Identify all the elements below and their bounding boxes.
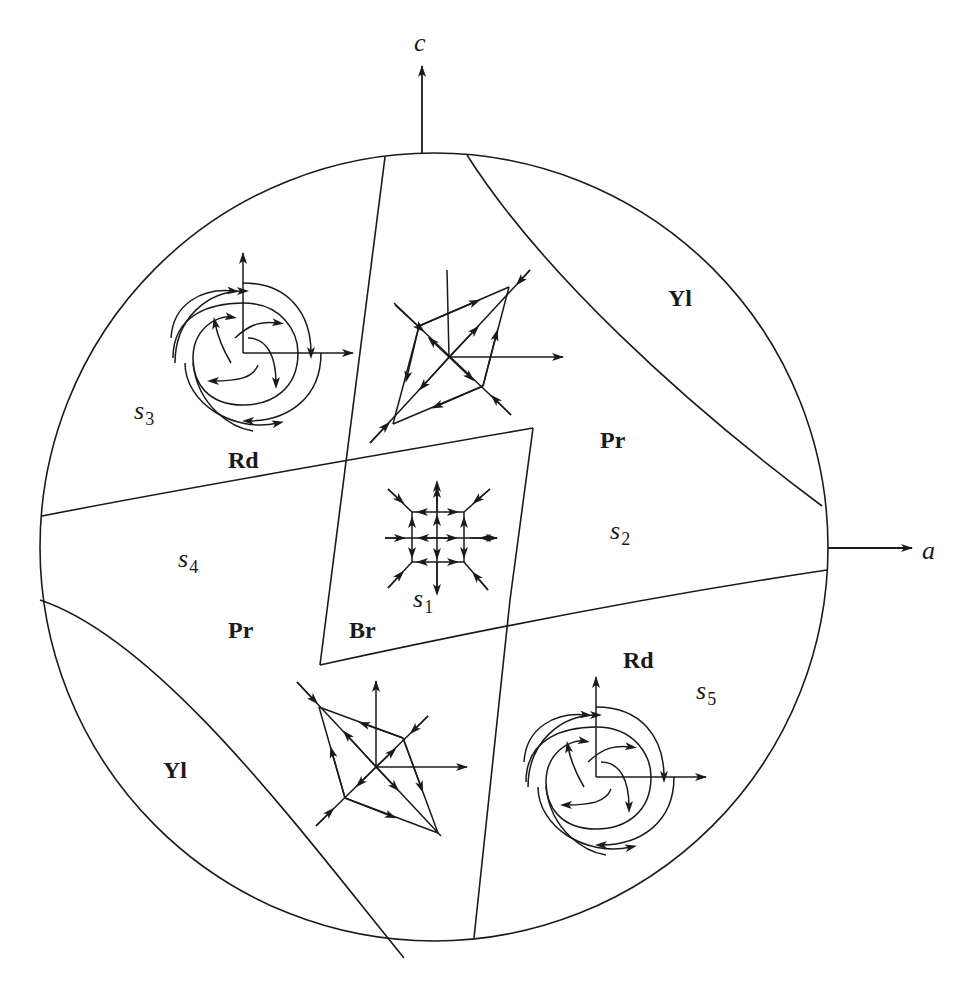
saddle-portrait-bottom-center xyxy=(297,681,467,836)
boundary-horizontal-upper xyxy=(42,428,533,516)
point-label-s3: s3 xyxy=(134,398,154,428)
region-label-pr-right: Pr xyxy=(600,428,625,452)
region-label-pr-left: Pr xyxy=(228,618,253,642)
s1-symbol: s xyxy=(413,584,423,613)
boundary-yl-top xyxy=(467,155,822,506)
s3-symbol: s xyxy=(134,396,144,425)
boundary-horizontal-lower xyxy=(320,570,827,665)
region-label-yl-top-right: Yl xyxy=(668,286,692,310)
s5-symbol: s xyxy=(696,676,706,705)
s4-symbol: s xyxy=(178,544,188,573)
point-label-s4: s4 xyxy=(178,546,198,576)
point-label-s2: s2 xyxy=(610,518,630,548)
region-label-yl-bottom-left: Yl xyxy=(163,758,187,782)
s2-symbol: s xyxy=(610,516,620,545)
grid-portrait-center xyxy=(385,484,497,592)
a-axis-label: a xyxy=(922,538,935,564)
region-label-rd-bottom-right: Rd xyxy=(623,648,654,672)
boundary-br-right xyxy=(474,428,533,938)
s4-subscript: 4 xyxy=(189,557,198,577)
c-axis-label: c xyxy=(414,30,426,56)
region-label-br-center: Br xyxy=(349,618,376,642)
region-label-rd-top-left: Rd xyxy=(228,448,259,472)
point-label-s5: s5 xyxy=(696,678,716,708)
boundary-yl-bottom xyxy=(40,600,404,958)
spiral-portrait-top-left xyxy=(171,253,353,431)
s3-subscript: 3 xyxy=(145,409,154,429)
s2-subscript: 2 xyxy=(621,529,630,549)
boundary-vertical-left xyxy=(320,157,385,665)
point-label-s1: s1 xyxy=(413,586,433,616)
s5-subscript: 5 xyxy=(707,689,716,709)
saddle-portrait-top-center xyxy=(370,270,563,443)
bifurcation-disk-diagram xyxy=(0,0,978,1005)
s1-subscript: 1 xyxy=(424,597,433,617)
spiral-portrait-bottom-right xyxy=(524,677,706,855)
